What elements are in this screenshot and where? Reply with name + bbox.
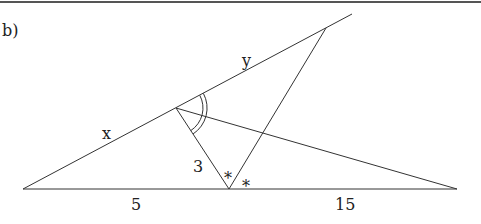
- label-5: 5: [131, 195, 141, 214]
- label-x: x: [102, 124, 111, 143]
- geometry-diagram: b) x y 3 5 15 * *: [0, 0, 481, 224]
- label-15: 15: [335, 195, 355, 214]
- segment-apex-to-mid: [176, 108, 229, 189]
- part-label: b): [2, 21, 18, 40]
- left-slant-line: [23, 14, 352, 189]
- label-y: y: [241, 51, 251, 70]
- angle-mark-left: *: [224, 169, 232, 188]
- segment-apex-to-right: [176, 108, 457, 189]
- angle-mark-right: *: [242, 177, 250, 196]
- label-3: 3: [193, 157, 203, 176]
